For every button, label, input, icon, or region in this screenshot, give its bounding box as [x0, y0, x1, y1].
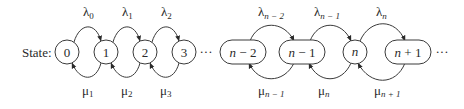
node-label: n + 1: [395, 45, 422, 60]
mu-n-label: μn: [318, 83, 330, 99]
lambda-n-1-label: λn − 1: [314, 4, 340, 21]
arc-lambda-n: [360, 24, 405, 41]
node-label: 1: [103, 45, 110, 60]
mu-2-label: μ2: [121, 83, 132, 99]
node-2: 2: [133, 40, 157, 64]
arc-mu-1: [72, 63, 101, 77]
node-label: n: [352, 44, 359, 59]
birth-death-diagram: State: 0 1 2 3 ··· n − 2: [0, 0, 464, 109]
arc-lambda-n-1: [310, 25, 351, 41]
node-label-rest: + 1: [401, 45, 421, 60]
death-rate-labels: μ1 μ2 μ3 μn − 1 μn μn + 1: [82, 83, 401, 99]
arc-lambda-2: [152, 27, 179, 42]
arc-mu-n+1: [358, 63, 405, 80]
arc-lambda-0: [74, 27, 101, 42]
node-label-rest: − 1: [295, 45, 315, 60]
node-label: 0: [64, 45, 71, 60]
death-arcs: [72, 63, 405, 80]
birth-rate-labels: λ0 λ1 λ2 λn − 2 λn − 1 λn: [83, 4, 387, 21]
arc-lambda-n-2: [250, 25, 294, 41]
arc-lambda-1: [113, 27, 140, 42]
birth-arcs: [74, 24, 405, 42]
lambda-1-label: λ1: [122, 4, 133, 21]
node-label: 2: [142, 45, 149, 60]
lambda-n-2-label: λn − 2: [258, 4, 284, 21]
node-label: n − 2: [230, 45, 257, 60]
node-1: 1: [94, 40, 118, 64]
mu-1-label: μ1: [82, 83, 93, 99]
lambda-0-label: λ0: [83, 4, 94, 21]
mu-n-1-label: μn − 1: [258, 83, 285, 99]
mu-3-label: μ3: [160, 83, 172, 99]
state-caption: State:: [22, 45, 52, 60]
node-label-rest: − 2: [236, 45, 256, 60]
node-n-2: n − 2: [220, 40, 266, 64]
arc-mu-3: [150, 63, 179, 77]
arc-mu-2: [111, 63, 140, 77]
lambda-2-label: λ2: [161, 4, 172, 21]
lambda-n-label: λn: [376, 4, 387, 21]
mu-n+1-label: μn + 1: [374, 83, 401, 99]
ellipsis-middle: ···: [200, 44, 213, 59]
node-n+1: n + 1: [385, 40, 431, 64]
node-3: 3: [172, 40, 196, 64]
node-label: 3: [181, 45, 188, 60]
node-0: 0: [55, 40, 79, 64]
arc-mu-n: [309, 63, 351, 79]
node-label: n − 1: [289, 45, 316, 60]
arc-mu-n-1: [249, 63, 294, 79]
ellipsis-end: ···: [436, 44, 449, 59]
node-n-1: n − 1: [279, 40, 325, 64]
node-n: n: [343, 40, 367, 64]
